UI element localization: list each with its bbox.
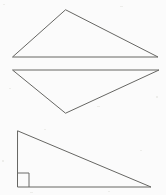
paper-speck: [97, 106, 100, 107]
paper-speck: [44, 129, 46, 130]
paper-speck: [108, 191, 110, 192]
figure-canvas: [0, 0, 166, 195]
paper-speck: [2, 160, 4, 162]
paper-speck: [120, 6, 123, 7]
paper-speck: [30, 192, 33, 193]
paper-speck: [140, 150, 142, 151]
paper-speck: [9, 88, 11, 89]
paper-speck: [156, 96, 158, 98]
geometry-figure-sheet: [0, 0, 166, 195]
sheet-background: [0, 0, 166, 195]
paper-speck: [3, 4, 5, 5]
